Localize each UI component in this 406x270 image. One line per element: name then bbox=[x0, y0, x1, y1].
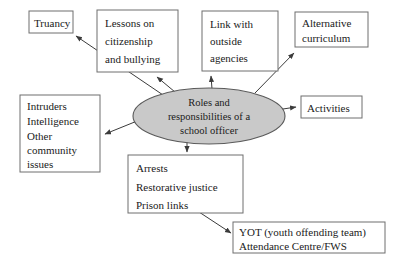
node-arrests-line-3: Prison links bbox=[136, 199, 188, 211]
arrow-hub-to-link-outside-agencies bbox=[211, 76, 212, 89]
node-arrests[interactable]: Arrests Restorative justice Prison links bbox=[128, 155, 243, 213]
hub-label-line-3: school officer bbox=[180, 125, 238, 136]
node-lessons-line-1: Lessons on bbox=[105, 17, 155, 29]
arrow-hub-to-lessons bbox=[157, 77, 175, 92]
node-intruders-line-4: community bbox=[27, 144, 78, 156]
arrow-arrests-to-yot bbox=[199, 212, 231, 233]
concept-map-diagram: Truancy Lessons on citizenship and bully… bbox=[0, 0, 406, 270]
node-yot-line-2: Attendance Centre/FWS bbox=[239, 240, 347, 252]
node-alternative-curriculum-line-2: curriculum bbox=[302, 32, 351, 44]
hub-label-line-1: Roles and bbox=[188, 97, 230, 108]
node-intruders-line-2: Intelligence bbox=[27, 115, 79, 127]
node-truancy[interactable]: Truancy bbox=[29, 11, 73, 33]
node-arrests-line-1: Arrests bbox=[136, 162, 168, 174]
node-yot[interactable]: YOT (youth offending team) Attendance Ce… bbox=[233, 222, 385, 253]
node-intruders-line-1: Intruders bbox=[27, 100, 67, 112]
node-yot-line-1: YOT (youth offending team) bbox=[239, 226, 366, 239]
diagram-canvas: Truancy Lessons on citizenship and bully… bbox=[0, 0, 406, 270]
node-intruders[interactable]: Intruders Intelligence Other community i… bbox=[20, 95, 100, 172]
node-intruders-line-3: Other bbox=[27, 130, 52, 142]
node-link-outside-agencies-line-3: agencies bbox=[210, 52, 248, 64]
node-activities[interactable]: Activities bbox=[301, 96, 362, 118]
node-link-outside-agencies-line-1: Link with bbox=[210, 18, 254, 30]
node-arrests-line-2: Restorative justice bbox=[136, 181, 218, 193]
node-lessons-line-3: and bullying bbox=[105, 53, 161, 65]
node-lessons-line-2: citizenship bbox=[105, 35, 153, 47]
node-alternative-curriculum-line-1: Alternative bbox=[302, 17, 352, 29]
node-link-outside-agencies-line-2: outside bbox=[210, 35, 242, 47]
node-truancy-line-1: Truancy bbox=[34, 17, 71, 29]
node-activities-line-1: Activities bbox=[307, 102, 350, 114]
node-link-outside-agencies[interactable]: Link with outside agencies bbox=[202, 11, 278, 71]
node-alternative-curriculum[interactable]: Alternative curriculum bbox=[295, 12, 368, 47]
arrow-hub-to-activities bbox=[283, 107, 296, 109]
node-intruders-line-5: issues bbox=[27, 158, 53, 170]
hub-label-line-2: responsibilities of a bbox=[168, 111, 251, 122]
hub-node[interactable]: Roles and responsibilities of a school o… bbox=[133, 88, 285, 144]
node-lessons[interactable]: Lessons on citizenship and bullying bbox=[97, 10, 178, 72]
